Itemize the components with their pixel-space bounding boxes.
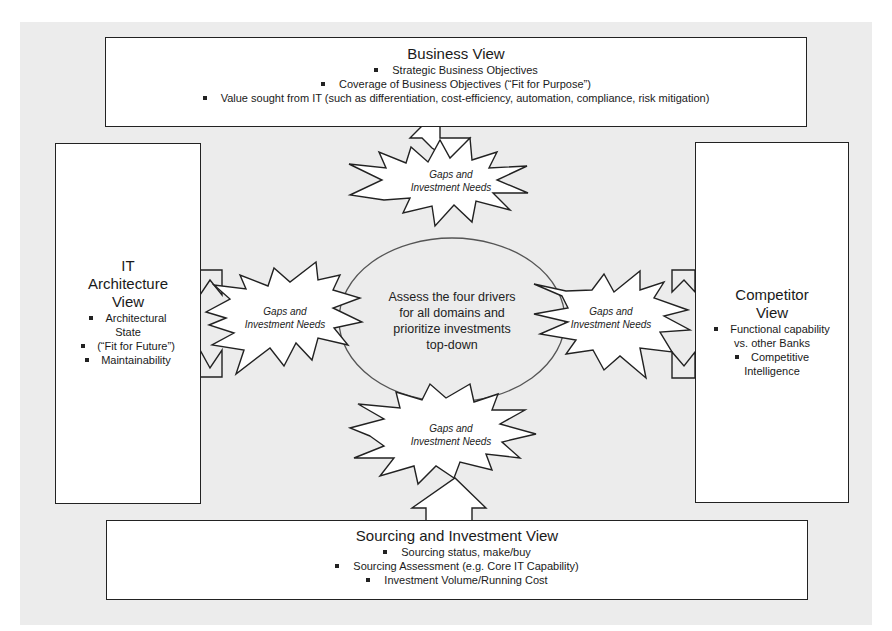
competitor-view-item: Functional capability (696, 322, 848, 336)
bullet-icon (714, 327, 718, 331)
business-view-item: Coverage of Business Objectives (“Fit fo… (106, 77, 806, 91)
competitor-view-item: vs. other Banks (696, 336, 848, 350)
it-architecture-item: Maintainability (56, 353, 200, 367)
bullet-icon (203, 96, 207, 100)
arrow-left-from-right (672, 270, 695, 292)
it-architecture-title: IT Architecture View (56, 257, 200, 311)
business-view-item: Strategic Business Objectives (106, 63, 806, 77)
starburst-left-label: Gaps and Investment Needs (222, 305, 348, 331)
bullet-icon (89, 316, 93, 320)
sourcing-investment-view-box: Sourcing and Investment View Sourcing st… (106, 520, 808, 600)
competitor-view-item: Intelligence (696, 364, 848, 378)
sourcing-investment-title: Sourcing and Investment View (107, 527, 807, 545)
sourcing-investment-item: Investment Volume/Running Cost (107, 573, 807, 587)
arrow-right-from-left (200, 270, 222, 295)
bullet-icon (81, 344, 85, 348)
bullet-icon (85, 358, 89, 362)
starburst-right-label: Gaps and Investment Needs (548, 305, 674, 331)
bullet-icon (366, 578, 370, 582)
it-architecture-item: (“Fit for Future”) (56, 339, 200, 353)
bullet-icon (374, 68, 378, 72)
bullet-icon (383, 550, 387, 554)
it-architecture-view-box: IT Architecture View Architectural State… (55, 143, 201, 504)
sourcing-investment-item: Sourcing Assessment (e.g. Core IT Capabi… (107, 559, 807, 573)
competitor-view-item: Competitive (696, 350, 848, 364)
bullet-icon (335, 564, 339, 568)
center-assessment-text: Assess the four drivers for all domains … (362, 289, 542, 353)
business-view-box: Business View Strategic Business Objecti… (105, 37, 807, 127)
starburst-bottom-label: Gaps and Investment Needs (388, 422, 514, 448)
arrow-up-from-bottom (412, 478, 486, 521)
competitor-view-box: Competitor View Functional capability vs… (695, 142, 849, 503)
it-architecture-item: State (56, 325, 200, 339)
competitor-view-title: Competitor View (696, 286, 848, 322)
business-view-title: Business View (106, 45, 806, 63)
sourcing-investment-item: Sourcing status, make/buy (107, 545, 807, 559)
starburst-top-label: Gaps and Investment Needs (388, 168, 514, 194)
arrow-right-from-left-lower (200, 350, 222, 377)
bullet-icon (321, 82, 325, 86)
it-architecture-item: Architectural (56, 311, 200, 325)
business-view-item: Value sought from IT (such as differenti… (106, 91, 806, 105)
arrow-left-from-right-lower (672, 352, 695, 378)
bullet-icon (735, 355, 739, 359)
